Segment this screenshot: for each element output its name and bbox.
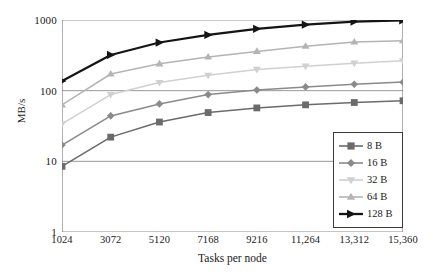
marker-diamond bbox=[302, 83, 310, 91]
marker-square bbox=[400, 97, 403, 104]
marker-diamond bbox=[107, 112, 115, 120]
x-tick-label: 9216 bbox=[246, 234, 267, 245]
legend-item[interactable]: 8 B bbox=[338, 137, 399, 154]
y-tick-label: 1000 bbox=[34, 14, 57, 26]
marker-triangle-right bbox=[156, 38, 164, 46]
marker-triangle-right bbox=[107, 51, 115, 59]
marker-diamond bbox=[156, 100, 164, 108]
legend-item[interactable]: 128 B bbox=[338, 205, 399, 222]
chart-legend: 8 B16 B32 B64 B128 B bbox=[333, 132, 403, 228]
y-axis-label: MB/s bbox=[15, 81, 27, 141]
x-tick-label: 13,312 bbox=[340, 234, 369, 245]
marker-square bbox=[205, 109, 212, 116]
x-tick-label: 15,360 bbox=[388, 234, 417, 245]
legend-marker-triangle-down-icon bbox=[338, 173, 364, 187]
marker-triangle-right bbox=[204, 31, 212, 39]
legend-item[interactable]: 16 B bbox=[338, 154, 399, 171]
marker-square bbox=[253, 105, 260, 112]
legend-marker-triangle-right-icon bbox=[338, 207, 364, 221]
x-tick-label: 1024 bbox=[51, 234, 72, 245]
marker-triangle-right bbox=[347, 209, 356, 218]
marker-triangle-up bbox=[399, 37, 403, 44]
marker-square bbox=[302, 101, 309, 108]
y-tick-label: 100 bbox=[40, 85, 57, 97]
legend-label: 16 B bbox=[367, 157, 387, 168]
chart-figure: 1000100101 MB/s 1024307251207168921611,2… bbox=[0, 0, 433, 277]
marker-square bbox=[107, 134, 114, 141]
marker-diamond bbox=[204, 91, 212, 99]
legend-label: 32 B bbox=[367, 174, 387, 185]
x-tick-label: 3072 bbox=[100, 234, 121, 245]
marker-diamond bbox=[350, 81, 358, 89]
legend-marker-triangle-up-icon bbox=[338, 190, 364, 204]
legend-label: 128 B bbox=[367, 208, 392, 219]
marker-diamond bbox=[347, 159, 355, 167]
marker-square bbox=[62, 163, 65, 170]
x-tick-label: 11,264 bbox=[291, 234, 320, 245]
legend-label: 8 B bbox=[367, 140, 382, 151]
marker-triangle-right bbox=[253, 25, 261, 33]
x-tick-label: 7168 bbox=[197, 234, 218, 245]
y-axis-ticks: 1000100101 bbox=[0, 20, 57, 232]
marker-diamond bbox=[399, 78, 403, 86]
marker-triangle-right bbox=[399, 20, 403, 24]
legend-item[interactable]: 32 B bbox=[338, 171, 399, 188]
marker-triangle-down bbox=[107, 92, 115, 99]
legend-label: 64 B bbox=[367, 191, 387, 202]
legend-marker-square-icon bbox=[338, 139, 364, 153]
x-axis-ticks: 1024307251207168921611,26413,31215,360 bbox=[62, 234, 403, 250]
y-tick-label: 10 bbox=[46, 155, 57, 167]
marker-square bbox=[351, 99, 358, 106]
marker-square bbox=[156, 119, 163, 126]
legend-marker-diamond-icon bbox=[338, 156, 364, 170]
marker-square bbox=[347, 142, 354, 149]
marker-triangle-right bbox=[302, 21, 310, 29]
legend-item[interactable]: 64 B bbox=[338, 188, 399, 205]
x-axis-label: Tasks per node bbox=[62, 252, 403, 264]
marker-diamond bbox=[253, 86, 261, 94]
x-tick-label: 5120 bbox=[149, 234, 170, 245]
